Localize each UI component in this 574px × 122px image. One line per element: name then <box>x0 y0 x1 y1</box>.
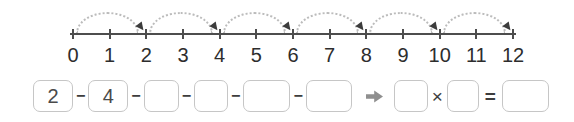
equation-row: 2−4−−−−×= <box>33 80 549 112</box>
sequence-answer-box[interactable] <box>144 80 179 112</box>
tick-label: 5 <box>238 45 274 65</box>
tick-label: 10 <box>422 45 458 65</box>
factor-answer-box[interactable] <box>447 80 479 112</box>
tick-label: 6 <box>275 45 311 65</box>
tick-label: 12 <box>495 45 531 65</box>
minus-separator: − <box>76 88 85 104</box>
tick-label: 8 <box>348 45 384 65</box>
number-line: 0123456789101112 <box>0 0 574 72</box>
equals-symbol: = <box>485 87 496 106</box>
jump-arc <box>223 12 286 33</box>
tick-label: 0 <box>55 45 91 65</box>
result-answer-box[interactable] <box>502 80 549 112</box>
jump-arc <box>369 12 432 33</box>
jump-arc <box>76 12 139 33</box>
jump-arc <box>296 12 359 33</box>
sequence-answer-box[interactable] <box>306 80 352 112</box>
box-value: 2 <box>47 85 58 108</box>
given-number-box: 2 <box>33 80 73 112</box>
times-symbol: × <box>432 87 443 106</box>
minus-separator: − <box>293 88 302 104</box>
factor-answer-box[interactable] <box>394 80 428 112</box>
jump-arc <box>443 12 506 33</box>
tick-mark <box>512 29 514 39</box>
minus-separator: − <box>182 88 191 104</box>
tick-mark <box>292 29 294 39</box>
sequence-answer-box[interactable] <box>194 80 228 112</box>
worksheet-panel: 0123456789101112 2−4−−−−×= <box>0 0 574 122</box>
tick-label: 9 <box>385 45 421 65</box>
minus-separator: − <box>131 88 140 104</box>
tick-label: 7 <box>312 45 348 65</box>
jump-arc <box>149 12 212 33</box>
given-number-box: 4 <box>88 80 128 112</box>
tick-mark <box>439 29 441 39</box>
tick-mark <box>145 29 147 39</box>
box-value: 4 <box>103 85 114 108</box>
tick-mark <box>219 29 221 39</box>
tick-mark <box>72 29 74 39</box>
tick-mark <box>365 29 367 39</box>
sequence-answer-box[interactable] <box>243 80 290 112</box>
tick-label: 1 <box>92 45 128 65</box>
minus-separator: − <box>231 88 240 104</box>
tick-label: 3 <box>165 45 201 65</box>
tick-label: 4 <box>202 45 238 65</box>
tick-label: 2 <box>128 45 164 65</box>
right-arrow-icon <box>366 90 383 103</box>
tick-label: 11 <box>458 45 494 65</box>
